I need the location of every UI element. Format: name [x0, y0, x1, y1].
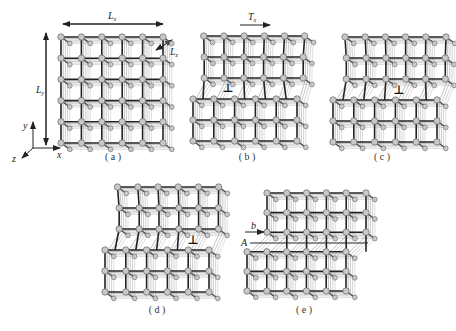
lx-dimension-arrow: Lx [63, 10, 163, 24]
atom [185, 289, 191, 295]
axes-indicator: y x z [11, 120, 62, 164]
back-atom [423, 104, 428, 109]
back-atom [149, 126, 154, 131]
lx-label: Lx [107, 10, 117, 22]
atom [413, 97, 419, 103]
atom [99, 34, 105, 40]
x-axis-label: x [56, 149, 62, 160]
atom [156, 205, 162, 211]
back-atom [339, 125, 344, 130]
back-atom [199, 145, 204, 150]
back-atom [108, 126, 113, 131]
atom [392, 97, 398, 103]
atom [363, 229, 369, 235]
back-atom [67, 41, 72, 46]
atom [264, 249, 270, 255]
atom [284, 229, 290, 235]
back-atom [452, 83, 456, 88]
atom [139, 119, 145, 125]
lattice-nodes [58, 34, 174, 152]
back-atom [353, 236, 358, 241]
back-atom [293, 256, 298, 261]
atom [362, 34, 368, 40]
back-atom [293, 236, 298, 241]
atom [123, 289, 129, 295]
atom [273, 96, 279, 102]
atom [176, 205, 182, 211]
atom [294, 138, 300, 144]
atom [215, 205, 221, 211]
back-atom [313, 236, 318, 241]
atom [363, 55, 369, 61]
back-atom [452, 41, 456, 46]
atom [343, 190, 349, 196]
shear-stress-arrow: Tx [240, 11, 270, 25]
back-atom [88, 83, 93, 88]
atom [78, 55, 84, 61]
back-atom [311, 40, 316, 45]
atom [139, 55, 145, 61]
atom [383, 76, 389, 82]
back-atom [412, 83, 417, 88]
atom [323, 268, 329, 274]
back-atom [303, 145, 308, 150]
atom [244, 288, 250, 294]
atom [371, 97, 377, 103]
atom [273, 138, 279, 144]
back-atom [333, 275, 338, 280]
back-atom [333, 197, 338, 202]
back-atom [262, 103, 267, 108]
atom [116, 226, 122, 232]
back-atom [185, 191, 190, 196]
atom [215, 226, 221, 232]
atom [382, 34, 388, 40]
back-atom [373, 62, 378, 67]
atom [422, 55, 428, 61]
back-atom [352, 295, 357, 300]
panel-a: ( a ) [58, 34, 174, 163]
atom [303, 268, 309, 274]
atom [119, 76, 125, 82]
back-atom [174, 254, 179, 259]
atom [102, 289, 108, 295]
back-atom [230, 61, 235, 66]
back-atom [67, 126, 72, 131]
back-atom [253, 275, 258, 280]
back-atom [353, 62, 358, 67]
back-atom [132, 254, 137, 259]
atom [442, 76, 448, 82]
atom [264, 229, 270, 235]
atom [351, 97, 357, 103]
back-atom [432, 41, 437, 46]
atom [211, 96, 217, 102]
back-atom [215, 296, 220, 301]
back-atom [392, 41, 397, 46]
back-atom [230, 40, 235, 45]
back-atom [146, 233, 151, 238]
back-atom [220, 145, 225, 150]
back-atom [88, 41, 93, 46]
back-atom [333, 217, 338, 222]
atom [252, 117, 258, 123]
atom [303, 190, 309, 196]
back-atom [225, 212, 230, 217]
atom [102, 247, 108, 253]
atom [175, 184, 181, 190]
atom [231, 96, 237, 102]
back-atom [290, 82, 295, 87]
back-atom [67, 83, 72, 88]
back-atom [313, 275, 318, 280]
atom [143, 289, 149, 295]
back-atom [271, 40, 276, 45]
back-atom [273, 275, 278, 280]
burgers-vector-label: b [251, 220, 256, 231]
y-axis-label: y [22, 120, 28, 131]
back-atom [126, 212, 131, 217]
back-atom [381, 125, 386, 130]
atom [342, 34, 348, 40]
atom [323, 209, 329, 215]
back-atom [333, 256, 338, 261]
back-atom [153, 275, 158, 280]
back-atom [443, 104, 448, 109]
atom [99, 55, 105, 61]
